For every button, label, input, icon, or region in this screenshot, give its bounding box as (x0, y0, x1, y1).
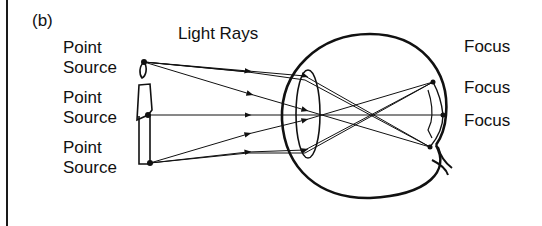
eye-optics-diagram (0, 0, 542, 226)
light-rays-bottom-source (150, 82, 433, 163)
optic-nerve (432, 147, 452, 175)
source-points (141, 59, 153, 166)
lens (296, 70, 320, 158)
light-rays-top-source (144, 62, 430, 147)
retina-inner (428, 90, 432, 138)
eyeball-outline (282, 34, 446, 198)
